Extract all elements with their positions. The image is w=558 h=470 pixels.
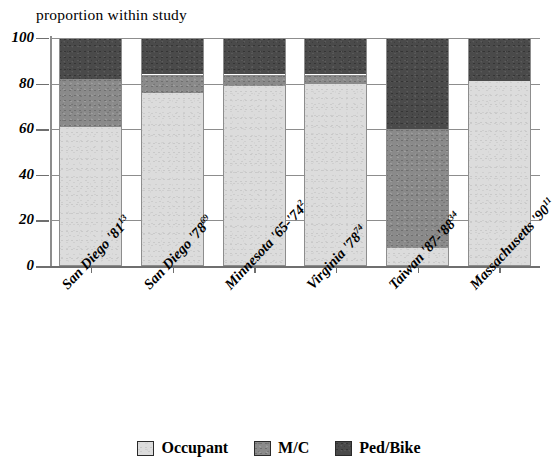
bar-segment-ped-bike[interactable]: [386, 38, 449, 129]
gridline: [50, 84, 540, 85]
y-axis-tick-label: 20: [19, 212, 34, 227]
gridline: [50, 38, 540, 39]
x-axis-line: [36, 266, 540, 268]
legend-label: Occupant: [161, 440, 228, 456]
legend-swatch-icon: [137, 441, 154, 456]
chart-figure: proportion within study 020406080100 San…: [0, 0, 558, 470]
y-axis-tick-label: 40: [19, 167, 34, 182]
bar-segment-ped-bike[interactable]: [223, 38, 286, 74]
y-axis-tick-label: 0: [27, 258, 35, 273]
y-axis-tick: [36, 175, 49, 176]
y-axis-tick-label: 80: [19, 76, 34, 91]
bar-segment-m-c[interactable]: [59, 79, 122, 127]
legend-label: M/C: [278, 440, 309, 456]
chart-legend: OccupantM/CPed/Bike: [0, 440, 558, 456]
legend-label: Ped/Bike: [359, 440, 420, 456]
y-axis-tick: [36, 220, 49, 221]
y-axis-tick: [36, 266, 49, 267]
bar-segment-ped-bike[interactable]: [59, 38, 122, 79]
legend-item-m-c[interactable]: M/C: [254, 440, 309, 456]
y-axis-tick-label: 100: [12, 30, 35, 45]
bar-segment-m-c[interactable]: [223, 75, 286, 86]
bar-segment-m-c[interactable]: [304, 75, 367, 84]
y-axis-tick-labels: 020406080100: [0, 0, 34, 470]
bar-segment-ped-bike[interactable]: [304, 38, 367, 74]
gridline: [50, 175, 540, 176]
legend-item-occupant[interactable]: Occupant: [137, 440, 228, 456]
legend-swatch-icon: [335, 441, 352, 456]
y-axis-tick: [36, 38, 49, 39]
gridline: [50, 129, 540, 130]
bar-segment-ped-bike[interactable]: [141, 38, 204, 74]
legend-item-ped-bike[interactable]: Ped/Bike: [335, 440, 420, 456]
y-axis-tick: [36, 129, 49, 130]
y-axis-tick-label: 60: [19, 121, 34, 136]
bar-segment-ped-bike[interactable]: [468, 38, 531, 81]
legend-swatch-icon: [254, 441, 271, 456]
y-axis-tick: [36, 84, 49, 85]
bar-segment-m-c[interactable]: [141, 75, 204, 93]
chart-title: proportion within study: [36, 6, 187, 24]
